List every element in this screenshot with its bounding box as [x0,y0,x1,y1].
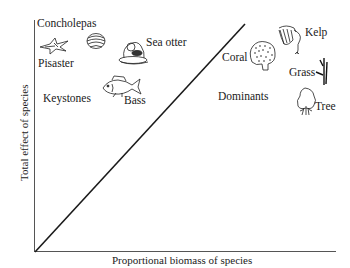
label-tree: Tree [315,101,336,113]
tree-icon [297,88,315,115]
sea-otter-icon [119,42,148,64]
label-kelp: Kelp [305,27,327,39]
label-bass: Bass [124,95,146,107]
label-grass: Grass [289,67,315,79]
label-pisaster: Pisaster [38,58,74,70]
kelp-icon [279,26,300,54]
label-concholepas: Concholepas [37,18,96,30]
starfish-icon [40,38,68,54]
label-keystones: Keystones [43,93,91,105]
label-coral: Coral [222,52,248,64]
coral-icon [250,42,275,71]
y-axis-label: Total effect of species [19,85,30,181]
label-sea-otter: Sea otter [146,37,187,49]
grass-icon [316,58,327,85]
x-axis-label: Proportional biomass of species [112,255,252,266]
label-dominants: Dominants [218,91,268,103]
shell-icon [87,34,105,49]
